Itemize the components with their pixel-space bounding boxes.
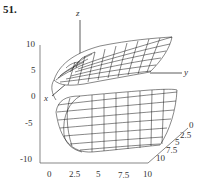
sheet-crease bbox=[52, 80, 56, 100]
z-axis-label: z bbox=[76, 9, 80, 18]
bottom-tick-7.5: 7.5 bbox=[118, 171, 129, 180]
depth-tick-2.5: 2.5 bbox=[180, 131, 191, 140]
x-axis bbox=[52, 84, 66, 96]
bottom-tick-5: 5 bbox=[96, 170, 101, 179]
left-tick-neg5: -5 bbox=[25, 119, 33, 128]
upper-sheet bbox=[54, 37, 172, 85]
y-axis-label: y bbox=[184, 68, 188, 77]
bottom-tick-10: 10 bbox=[143, 170, 152, 179]
depth-tick-7.5: 7.5 bbox=[166, 146, 177, 155]
left-tick-0: 0 bbox=[31, 92, 36, 101]
depth-tick-0: 0 bbox=[189, 121, 194, 130]
left-tick-10: 10 bbox=[26, 40, 35, 49]
x-axis-label: x bbox=[44, 94, 48, 103]
bottom-tick-0: 0 bbox=[47, 170, 52, 179]
left-tick-5: 5 bbox=[31, 66, 36, 75]
lower-sheet bbox=[56, 89, 177, 152]
depth-tick-10: 10 bbox=[156, 154, 165, 163]
bottom-tick-2.5: 2.5 bbox=[69, 170, 80, 179]
left-tick-neg10: -10 bbox=[20, 155, 32, 164]
